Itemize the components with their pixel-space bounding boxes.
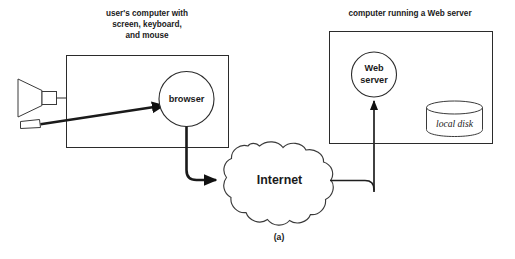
mouse-to-browser-arrow [41, 106, 165, 125]
client-caption-line-2: screen, keyboard, [112, 20, 182, 29]
diagram-canvas: user's computer with screen, keyboard, a… [0, 0, 515, 259]
mouse-icon [21, 120, 41, 129]
web-server-label-line-1: Web [364, 63, 384, 73]
browser-label: browser [169, 94, 205, 104]
disk-cylinder-icon: local disk [427, 101, 483, 137]
client-caption-line-1: user's computer with [106, 9, 188, 18]
browser-node: browser [159, 72, 214, 127]
web-server-label-line-2: server [360, 75, 388, 85]
server-caption: computer running a Web server [348, 9, 472, 18]
internet-label: Internet [257, 173, 302, 187]
internet-cloud: Internet [224, 142, 333, 225]
web-architecture-diagram: user's computer with screen, keyboard, a… [0, 0, 515, 259]
web-server-node: Web server [352, 52, 397, 97]
local-disk-label: local disk [436, 118, 474, 129]
figure-caption-label: (a) [274, 232, 285, 242]
browser-to-internet-link [187, 127, 217, 181]
internet-to-server-horizontal [330, 181, 374, 191]
server-caption-text: computer running a Web server [348, 9, 472, 18]
client-caption: user's computer with screen, keyboard, a… [106, 9, 188, 40]
client-caption-line-3: and mouse [125, 31, 169, 40]
monitor-icon [18, 79, 67, 117]
